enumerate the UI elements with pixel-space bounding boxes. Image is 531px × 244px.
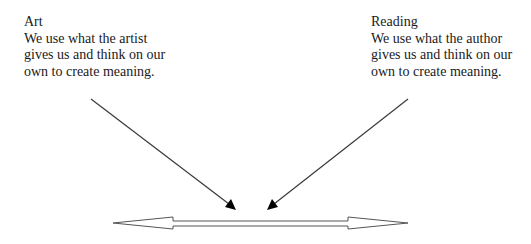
left-diagonal-arrow [91,99,236,210]
diagram-canvas [0,0,531,244]
double-headed-arrow [113,217,408,229]
right-diagonal-arrow [267,99,408,210]
arrowhead-icon [267,199,278,210]
arrowhead-icon [225,199,236,210]
